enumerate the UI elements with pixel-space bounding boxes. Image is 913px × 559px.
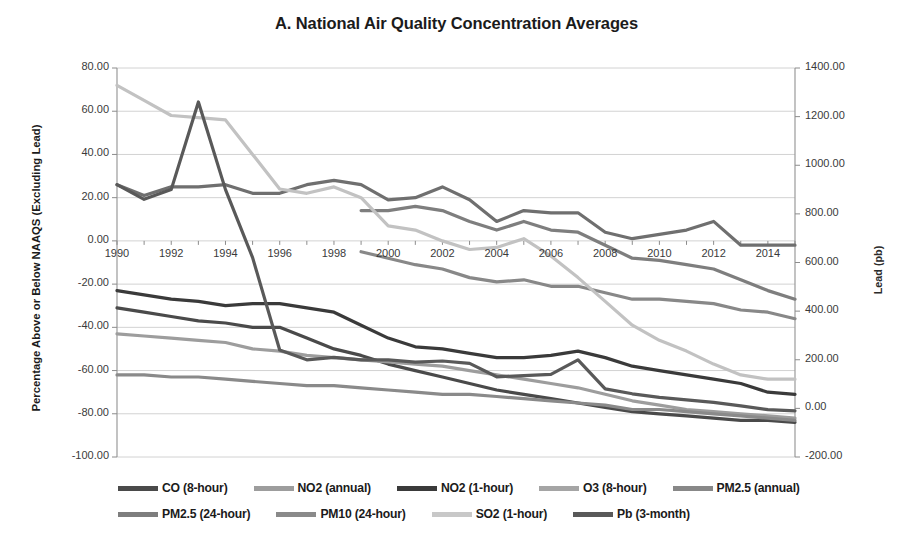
legend-item[interactable]: O3 (8-hour) [539, 481, 646, 495]
y-tick-label-left: 60.00 [39, 103, 109, 115]
legend-label: O3 (8-hour) [583, 481, 646, 495]
series-line [361, 252, 795, 319]
x-tick-label: 2010 [633, 247, 685, 259]
y-tick-label-right: 0.00 [805, 400, 885, 412]
x-tick-label: 1996 [254, 247, 306, 259]
legend-item[interactable]: NO2 (1-hour) [397, 481, 513, 495]
y-tick-label-left: -60.00 [39, 363, 109, 375]
legend-swatch-icon [118, 486, 158, 491]
x-tick-label: 2008 [579, 247, 631, 259]
y-tick-label-right: 1200.00 [805, 109, 885, 121]
x-tick-label: 2002 [416, 247, 468, 259]
y-tick-label-left: 0.00 [39, 233, 109, 245]
y-tick-label-right: 400.00 [805, 303, 885, 315]
y-tick-label-left: 20.00 [39, 190, 109, 202]
legend-swatch-icon [276, 512, 316, 517]
legend-swatch-icon [118, 512, 158, 517]
legend-label: PM2.5 (annual) [717, 481, 800, 495]
legend-label: PM2.5 (24-hour) [162, 507, 250, 521]
y-tick-label-right: 1000.00 [805, 157, 885, 169]
y-tick-label-right: 600.00 [805, 255, 885, 267]
legend-swatch-icon [397, 486, 437, 491]
y-tick-label-left: -100.00 [39, 449, 109, 461]
legend-swatch-icon [673, 486, 713, 491]
legend-label: NO2 (1-hour) [441, 481, 513, 495]
x-tick-label: 2014 [742, 247, 794, 259]
series-line [117, 85, 795, 379]
x-tick-label: 2006 [525, 247, 577, 259]
y-tick-label-left: -80.00 [39, 406, 109, 418]
series-line [117, 308, 795, 423]
chart-legend: CO (8-hour)NO2 (annual)NO2 (1-hour)O3 (8… [118, 475, 908, 527]
x-tick-label: 2000 [362, 247, 414, 259]
y-tick-label-left: 40.00 [39, 146, 109, 158]
x-tick-label: 2004 [471, 247, 523, 259]
y-tick-label-left: -20.00 [39, 276, 109, 288]
chart-container: A. National Air Quality Concentration Av… [0, 0, 913, 559]
legend-item[interactable]: Pb (3-month) [573, 507, 690, 521]
legend-swatch-icon [432, 512, 472, 517]
legend-item[interactable]: PM2.5 (24-hour) [118, 507, 250, 521]
legend-label: SO2 (1-hour) [476, 507, 547, 521]
legend-item[interactable]: SO2 (1-hour) [432, 507, 547, 521]
legend-row: PM2.5 (24-hour)PM10 (24-hour)SO2 (1-hour… [118, 501, 908, 527]
legend-label: PM10 (24-hour) [320, 507, 405, 521]
x-tick-label: 1992 [145, 247, 197, 259]
series-line [117, 180, 795, 245]
y-tick-label-left: 80.00 [39, 60, 109, 72]
legend-item[interactable]: PM10 (24-hour) [276, 507, 405, 521]
legend-swatch-icon [539, 486, 579, 491]
x-tick-label: 2012 [688, 247, 740, 259]
x-tick-label: 1994 [199, 247, 251, 259]
legend-label: Pb (3-month) [617, 507, 690, 521]
legend-item[interactable]: CO (8-hour) [118, 481, 228, 495]
y-tick-label-right: 800.00 [805, 206, 885, 218]
legend-row: CO (8-hour)NO2 (annual)NO2 (1-hour)O3 (8… [118, 475, 908, 501]
x-tick-label: 1998 [308, 247, 360, 259]
legend-item[interactable]: PM2.5 (annual) [673, 481, 800, 495]
legend-swatch-icon [573, 512, 613, 517]
y-tick-label-right: 200.00 [805, 352, 885, 364]
legend-item[interactable]: NO2 (annual) [254, 481, 371, 495]
legend-swatch-icon [254, 486, 294, 491]
y-tick-label-left: -40.00 [39, 319, 109, 331]
x-tick-label: 1990 [91, 247, 143, 259]
legend-label: CO (8-hour) [162, 481, 228, 495]
y-tick-label-right: -200.00 [805, 449, 885, 461]
y-tick-label-right: 1400.00 [805, 60, 885, 72]
legend-label: NO2 (annual) [298, 481, 371, 495]
